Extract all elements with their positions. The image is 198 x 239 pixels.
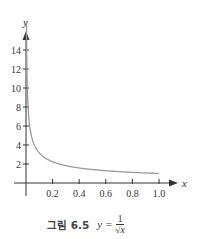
- axes: xy: [14, 16, 187, 196]
- caption-label: 그림 6.5: [47, 217, 89, 232]
- fraction-numerator: 1: [116, 214, 125, 225]
- x-tick-label: 0.2: [46, 188, 59, 199]
- y-tick-label: 2: [16, 159, 21, 170]
- x-axis-label: x: [181, 177, 187, 189]
- x-tick-label: 0.6: [100, 188, 113, 199]
- figure-caption: 그림 6.5 y = 1 √x: [47, 212, 125, 236]
- equation-lhs: y =: [97, 218, 112, 230]
- ticks: 0.20.40.60.81.02468101214: [11, 45, 165, 200]
- x-tick-label: 1.0: [153, 188, 166, 199]
- chart: xy 0.20.40.60.81.02468101214: [0, 0, 198, 210]
- x-axis-arrow: [169, 180, 178, 187]
- caption-equation: y = 1 √x: [97, 214, 125, 235]
- y-tick-label: 6: [16, 121, 21, 132]
- equation-fraction: 1 √x: [115, 214, 124, 235]
- y-tick-label: 14: [11, 45, 21, 56]
- fraction-denominator: √x: [115, 225, 124, 235]
- x-tick-label: 0.4: [73, 188, 86, 199]
- y-tick-label: 12: [11, 64, 21, 75]
- x-tick-label: 0.8: [126, 188, 139, 199]
- curve-line: [26, 22, 159, 174]
- y-tick-label: 8: [16, 102, 21, 113]
- series: [26, 22, 159, 174]
- y-tick-label: 10: [11, 83, 21, 94]
- y-tick-label: 4: [16, 140, 21, 151]
